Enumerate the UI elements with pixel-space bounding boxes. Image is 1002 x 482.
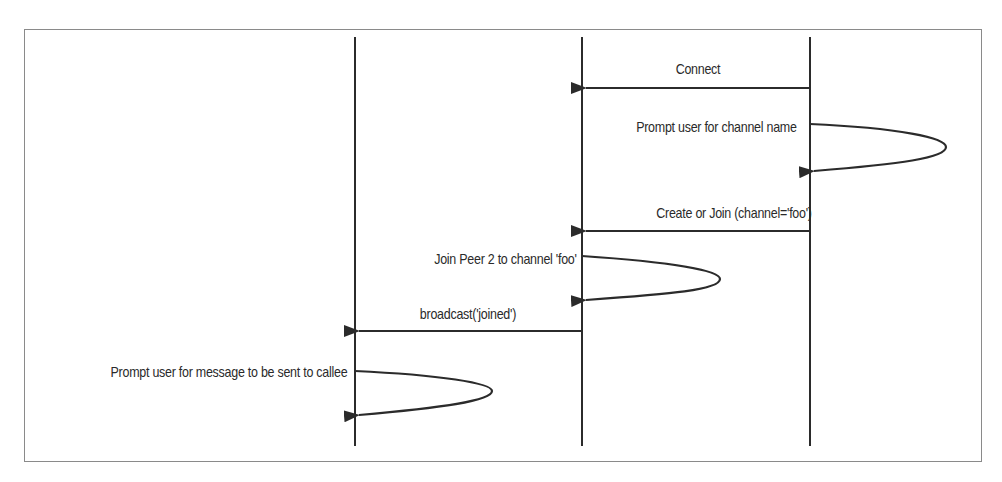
prompt-message-loop-arrow	[355, 371, 492, 415]
prompt-channel-loop-arrow	[810, 124, 946, 171]
sequence-diagram	[0, 0, 1002, 482]
label-prompt-message: Prompt user for message to be sent to ca…	[110, 364, 347, 380]
join-peer-loop-arrow	[582, 256, 720, 300]
label-join-peer: Join Peer 2 to channel 'foo'	[435, 251, 577, 267]
label-connect: Connect	[676, 61, 721, 77]
label-prompt-channel: Prompt user for channel name	[636, 119, 797, 135]
label-create-or-join: Create or Join (channel='foo')	[657, 205, 812, 221]
label-broadcast: broadcast('joined')	[420, 306, 516, 322]
